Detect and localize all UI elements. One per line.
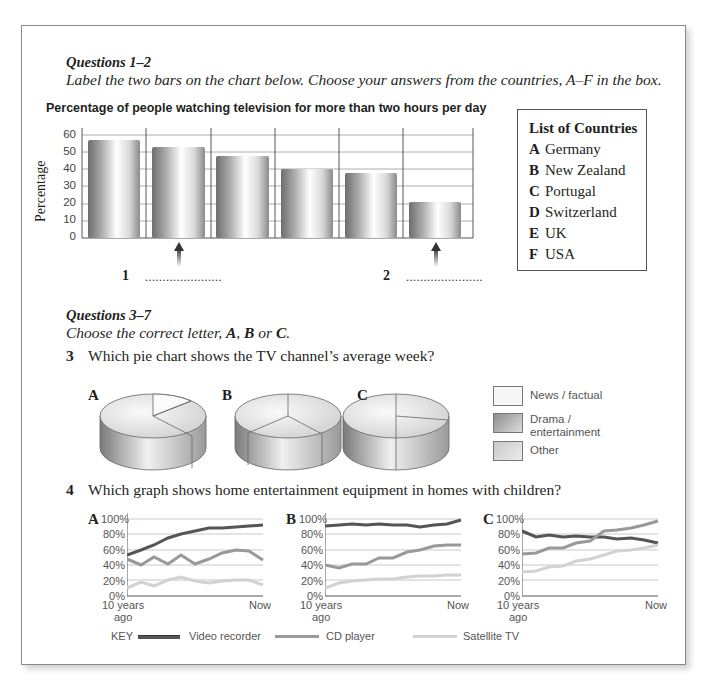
pie-chart-a xyxy=(100,394,206,470)
key-swatch-cd-player xyxy=(275,635,319,638)
graph-c-x-end: Now xyxy=(645,599,667,611)
country-item-d: DSwitzerland xyxy=(529,204,617,221)
pie-charts xyxy=(80,378,460,473)
graph-b-x-end: Now xyxy=(447,599,469,611)
pie-chart-b xyxy=(235,394,341,470)
country-item-c: CPortugal xyxy=(529,183,596,200)
y-tick-0: 0 xyxy=(56,230,76,242)
country-item-e: EUK xyxy=(529,225,567,242)
bar-chart-y-label: Percentage xyxy=(33,161,49,222)
question-3-number: 3 xyxy=(66,347,74,365)
questions-1-2-heading: Questions 1–2 xyxy=(66,54,151,71)
question-4-number: 4 xyxy=(66,481,74,499)
key-label-cd-player: CD player xyxy=(326,630,375,642)
country-list-title: List of Countries xyxy=(529,120,637,137)
graph-b-x-start: 10 yearsago xyxy=(300,599,342,623)
questions-1-2-instruction: Label the two bars on the chart below. C… xyxy=(66,71,662,89)
line-graph-a xyxy=(127,513,267,598)
legend-swatch-other xyxy=(493,441,523,461)
graph-a-x-start: 10 yearsago xyxy=(102,599,144,623)
y-tick-40: 40 xyxy=(56,162,76,174)
questions-3-7-instruction: Choose the correct letter, A, B or C. xyxy=(66,324,290,342)
legend-swatch-news xyxy=(493,386,523,406)
pie-chart-c xyxy=(343,394,449,470)
country-item-b: BNew Zealand xyxy=(529,162,625,179)
line-graph-b xyxy=(325,513,465,598)
graph-a-x-end: Now xyxy=(249,599,271,611)
legend-label-drama: Drama / entertainment xyxy=(530,413,605,439)
bar-chart-title: Percentage of people watching television… xyxy=(46,101,486,115)
pie-label-b[interactable]: B xyxy=(222,387,232,404)
questions-3-7-heading: Questions 3–7 xyxy=(66,307,151,324)
key-swatch-satellite-tv xyxy=(413,635,457,638)
answer-1-number: 1 xyxy=(122,268,129,284)
key-label: KEY xyxy=(111,630,133,642)
graph-c-y-ticks: 100%80%60%40%20%0% xyxy=(496,512,520,604)
pie-label-c[interactable]: C xyxy=(357,387,368,404)
country-list-box: List of Countries AGermany BNew Zealand … xyxy=(517,109,647,271)
question-3-text: Which pie chart shows the TV channel’s a… xyxy=(88,347,434,365)
key-label-video-recorder: Video recorder xyxy=(189,630,261,642)
y-tick-60: 60 xyxy=(56,128,76,140)
graph-label-c[interactable]: C xyxy=(483,511,494,528)
y-tick-30: 30 xyxy=(56,179,76,191)
y-tick-20: 20 xyxy=(56,196,76,208)
key-label-satellite-tv: Satellite TV xyxy=(463,630,519,642)
y-tick-10: 10 xyxy=(56,213,76,225)
graph-a-y-ticks: 100%80%60%40%20%0% xyxy=(101,512,125,604)
answer-1-blank[interactable]: ...................... xyxy=(145,270,222,285)
country-item-f: FUSA xyxy=(529,246,575,263)
graph-label-a[interactable]: A xyxy=(88,511,99,528)
arrow-bar-6 xyxy=(431,242,441,267)
key-swatch-video-recorder xyxy=(138,635,180,639)
answer-2-blank[interactable]: ...................... xyxy=(406,270,483,285)
line-graph-c xyxy=(522,513,662,598)
legend-label-news: News / factual xyxy=(530,389,602,402)
country-item-a: AGermany xyxy=(529,141,601,158)
y-tick-50: 50 xyxy=(56,145,76,157)
graph-c-x-start: 10 yearsago xyxy=(497,599,539,623)
question-4-text: Which graph shows home entertainment equ… xyxy=(88,481,561,499)
answer-2-number: 2 xyxy=(383,268,390,284)
legend-swatch-drama xyxy=(493,413,523,433)
legend-label-other: Other xyxy=(530,444,559,457)
graph-label-b[interactable]: B xyxy=(286,511,296,528)
pie-label-a[interactable]: A xyxy=(88,387,99,404)
arrow-bar-2 xyxy=(174,242,184,267)
graph-b-y-ticks: 100%80%60%40%20%0% xyxy=(299,512,323,604)
